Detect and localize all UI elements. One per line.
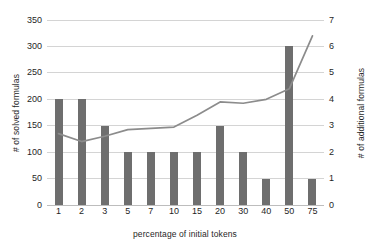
y-axis-left-tick-label: 350 <box>16 16 42 25</box>
x-axis-tick-label: 10 <box>162 207 185 216</box>
x-axis-tick-label: 7 <box>139 207 162 216</box>
y-axis-right-tick-label: 2 <box>329 148 355 157</box>
y-axis-left-tick-label: 200 <box>16 95 42 104</box>
x-axis-tick-label: 50 <box>278 207 301 216</box>
y-axis-right-tick-label: 0 <box>329 201 355 210</box>
y-axis-left-tick-label: 50 <box>16 174 42 183</box>
chart-container: # of solved formulas # of additional for… <box>0 0 373 249</box>
y-axis-left-tick-label: 0 <box>16 201 42 210</box>
line-series <box>47 20 324 205</box>
x-axis-tick-label: 15 <box>186 207 209 216</box>
x-axis-tick-label: 40 <box>255 207 278 216</box>
y-axis-right-tick-label: 4 <box>329 95 355 104</box>
y-axis-left-tick-label: 100 <box>16 148 42 157</box>
y-axis-left-ticks: 050100150200250300350 <box>12 20 42 205</box>
y-axis-left-tick-label: 150 <box>16 121 42 130</box>
x-axis-tick-label: 30 <box>232 207 255 216</box>
y-axis-right-tick-label: 7 <box>329 16 355 25</box>
x-axis-tick-label: 75 <box>301 207 324 216</box>
x-axis-tick-label: 20 <box>209 207 232 216</box>
y-axis-right-tick-label: 1 <box>329 174 355 183</box>
x-axis-title: percentage of initial tokens <box>46 229 324 239</box>
line-path <box>59 36 313 142</box>
y-axis-right-ticks: 01234567 <box>329 20 359 205</box>
x-axis-tick-label: 1 <box>47 207 70 216</box>
x-axis-ticks: 1235710152030405075 <box>47 207 324 223</box>
y-axis-left-tick-label: 250 <box>16 68 42 77</box>
y-axis-right-tick-label: 3 <box>329 121 355 130</box>
y-axis-left-tick-label: 300 <box>16 42 42 51</box>
x-axis-tick-label: 5 <box>116 207 139 216</box>
x-axis-tick-label: 2 <box>70 207 93 216</box>
plot-area <box>47 20 324 205</box>
y-axis-right-tick-label: 5 <box>329 68 355 77</box>
y-axis-right-tick-label: 6 <box>329 42 355 51</box>
x-axis-tick-label: 3 <box>93 207 116 216</box>
